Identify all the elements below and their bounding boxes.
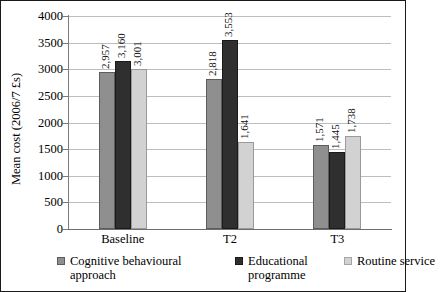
bar-value-label: 3,160 <box>116 33 127 58</box>
plot-area: 2,9573,1603,0012,8183,5531,6411,5711,445… <box>69 16 391 229</box>
chart-legend: Cognitive behavioural approach Education… <box>57 254 401 290</box>
legend-item-cognitive-behavioural-approach[interactable]: Cognitive behavioural approach <box>57 254 207 283</box>
legend-swatch-icon <box>344 257 352 265</box>
bar-value-label: 3,553 <box>223 12 234 37</box>
y-tick-mark <box>63 229 68 230</box>
bar[interactable] <box>313 145 329 229</box>
bar-value-label: 1,445 <box>330 124 341 149</box>
y-tick-label: 3500 <box>1 37 63 50</box>
legend-label: Educational programme <box>248 254 340 283</box>
bar[interactable] <box>115 61 131 229</box>
bar[interactable] <box>206 79 222 229</box>
bar-value-label: 1,571 <box>314 118 325 143</box>
legend-label: Cognitive behavioural approach <box>70 254 207 283</box>
bar-value-label: 2,818 <box>207 51 218 76</box>
legend-item-routine-service[interactable]: Routine service <box>344 254 440 268</box>
bar[interactable] <box>222 40 238 229</box>
bar[interactable] <box>99 72 115 229</box>
legend-swatch-icon <box>57 257 65 265</box>
bar-value-label: 3,001 <box>132 41 143 66</box>
y-tick-mark <box>63 43 68 44</box>
bar-groups: 2,9573,1603,0012,8183,5531,6411,5711,445… <box>69 16 391 229</box>
y-tick-mark <box>63 16 68 17</box>
bar-group: 1,5711,4451,738 <box>313 16 361 229</box>
bar[interactable] <box>329 152 345 229</box>
y-tick-label: 2500 <box>1 90 63 103</box>
y-axis-ticks: 05001000150020002500300035004000 <box>1 1 63 292</box>
y-tick-mark <box>63 123 68 124</box>
x-axis-line <box>68 229 392 230</box>
bar-group: 2,8183,5531,641 <box>206 16 254 229</box>
x-axis-labels: BaselineT2T3 <box>69 233 391 253</box>
legend-item-educational-programme[interactable]: Educational programme <box>235 254 340 283</box>
y-tick-mark <box>63 96 68 97</box>
bar[interactable] <box>131 69 147 229</box>
y-tick-label: 1000 <box>1 170 63 183</box>
legend-swatch-icon <box>235 257 243 265</box>
bar-group: 2,9573,1603,001 <box>99 16 147 229</box>
x-tick-label: T3 <box>284 233 391 247</box>
y-tick-label: 2000 <box>1 117 63 130</box>
bar[interactable] <box>238 142 254 229</box>
bar-value-label: 2,957 <box>100 44 111 69</box>
x-tick-label: Baseline <box>69 233 176 247</box>
bar-value-label: 1,641 <box>239 114 250 139</box>
y-tick-mark <box>63 69 68 70</box>
y-tick-label: 500 <box>1 196 63 209</box>
y-tick-mark <box>63 149 68 150</box>
y-tick-label: 3000 <box>1 63 63 76</box>
bar[interactable] <box>345 136 361 229</box>
x-tick-label: T2 <box>176 233 283 247</box>
legend-label: Routine service <box>357 254 435 268</box>
y-tick-label: 1500 <box>1 143 63 156</box>
y-tick-mark <box>63 202 68 203</box>
y-tick-label: 4000 <box>1 10 63 23</box>
y-tick-label: 0 <box>1 223 63 236</box>
bar-value-label: 1,738 <box>346 109 357 134</box>
y-tick-mark <box>63 176 68 177</box>
